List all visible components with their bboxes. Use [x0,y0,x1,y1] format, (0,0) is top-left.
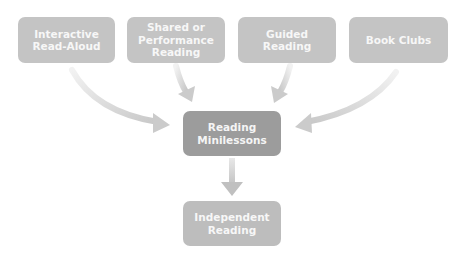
arrow-shared-to-minilessons [176,66,195,102]
node-shared-performance-reading: Shared or Performance Reading [127,17,225,63]
node-reading-minilessons: Reading Minilessons [183,111,281,156]
arrow-minilessons-to-independent [221,158,243,196]
arrow-guided-to-minilessons [271,66,290,103]
arrow-read-aloud-to-minilessons [72,70,170,133]
node-label-line: Book Clubs [366,34,432,47]
node-interactive-read-aloud: Interactive Read-Aloud [18,17,115,63]
node-label-line: Performance [138,34,214,47]
node-label-line: Guided Reading [244,28,330,53]
node-label-line: Reading [197,121,266,134]
node-book-clubs: Book Clubs [349,17,448,63]
node-label-line: Independent [194,211,269,224]
node-label-line: Reading [138,46,214,59]
node-label-line: Minilessons [197,134,266,147]
node-label-line: Interactive [32,28,100,41]
arrow-bookclubs-to-minilessons [295,72,396,133]
node-label-line: Reading [194,224,269,237]
node-label-line: Read-Aloud [32,40,100,53]
node-independent-reading: Independent Reading [183,201,281,246]
node-guided-reading: Guided Reading [238,17,336,63]
node-label-line: Shared or [138,21,214,34]
